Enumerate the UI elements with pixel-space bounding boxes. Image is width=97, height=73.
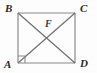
vertex-label-a: A <box>4 59 11 70</box>
geometry-figure: B C D A F <box>0 0 97 73</box>
vertex-label-c: C <box>80 3 87 14</box>
vertex-label-d: D <box>80 58 88 69</box>
point-label-f: F <box>45 19 52 29</box>
vertex-label-b: B <box>5 3 12 14</box>
